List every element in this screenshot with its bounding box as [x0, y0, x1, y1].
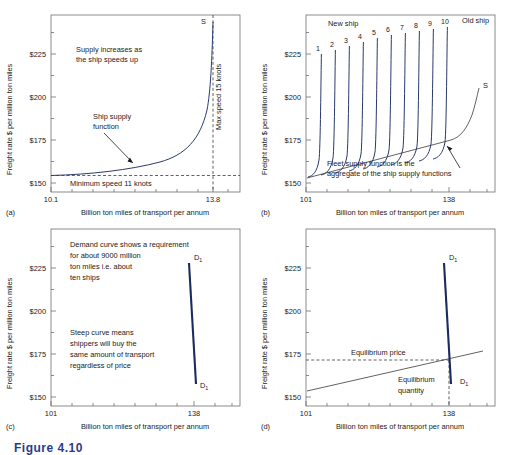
steep-curve-note-line2: shippers will buy the — [70, 339, 137, 348]
panel-c-xlabel: Billion ton miles of transport per annum — [81, 422, 209, 431]
ship-number-8: 8 — [414, 22, 418, 29]
demand-requirement-note-line2: for about 9000 million — [70, 251, 141, 260]
panel-c-y-ticks — [51, 247, 56, 398]
ship-number-5: 5 — [372, 29, 376, 36]
demand-requirement-note-line1: Demand curve shows a requirement — [70, 240, 189, 249]
panel-d-xtick-left: 101 — [300, 409, 312, 418]
ship-curve-5 — [363, 38, 377, 169]
ship-number-10: 10 — [441, 18, 449, 25]
ship-supply-function-note-line2: function — [93, 122, 119, 131]
ship-number-6: 6 — [386, 26, 390, 33]
ship-curve-4 — [349, 42, 363, 171]
ship-curve-9 — [419, 29, 433, 161]
supply-curve-label: S — [201, 17, 206, 26]
panel-b-ytick-225: $225 — [285, 50, 301, 59]
panel-a: Freight rate $ per million ton miles $15… — [0, 0, 255, 226]
new-ship-note: New ship — [328, 19, 358, 28]
ship-number-2: 2 — [330, 41, 334, 48]
equilibrium-quantity-note-line1: Equilibrium — [398, 375, 435, 384]
panel-a-xtick-left: 10.1 — [44, 195, 58, 204]
panel-a-ylabel: Freight rate $ per million ton miles — [5, 63, 14, 175]
panel-c-xtick-right: 138 — [188, 409, 200, 418]
ship-supply-function-note-line1: Ship supply — [93, 112, 132, 121]
fleet-supply-curve-label: S — [483, 81, 488, 90]
panel-a-ytick-225: $225 — [30, 50, 46, 59]
old-ship-note: Old ship — [462, 16, 489, 25]
panel-c-ytick-175: $175 — [30, 350, 46, 359]
panel-b: Freight rate $ per million ton miles $15… — [255, 0, 510, 226]
panel-d-y-ticks — [306, 247, 311, 398]
panel-d-label: (d) — [261, 422, 270, 431]
ship-number-7: 7 — [400, 24, 404, 31]
panel-b-xtick-right: 138 — [443, 195, 455, 204]
fleet-supply-arrowhead — [447, 146, 453, 151]
ship-number-1: 1 — [316, 45, 320, 52]
demand-requirement-note-line4: ten ships — [70, 273, 100, 282]
ship-supply-arrow — [104, 133, 133, 163]
panel-a-y-ticks — [51, 33, 56, 184]
panel-a-ytick-175: $175 — [30, 136, 46, 145]
panel-d-ytick-150: $150 — [285, 393, 301, 402]
panel-d-x-ticks — [306, 401, 487, 406]
panel-b-x-ticks — [306, 187, 487, 192]
ship-number-4: 4 — [358, 33, 362, 40]
demand-curve-label-top: D1 — [449, 253, 457, 263]
demand-curve-label-top: D1 — [194, 253, 202, 263]
supply-increases-note-line2: the ship speeds up — [76, 55, 138, 64]
panel-c-ytick-225: $225 — [30, 264, 46, 273]
ship-number-3: 3 — [344, 37, 348, 44]
demand-curve — [189, 263, 196, 384]
panel-b-ytick-200: $200 — [285, 93, 301, 102]
panel-b-xtick-left: 101 — [300, 195, 312, 204]
panel-c-label: (c) — [6, 422, 15, 431]
ship-curve-8 — [405, 31, 419, 163]
ship-curve-1 — [308, 54, 321, 177]
minimum-speed-note: Minimum speed 11 knots — [70, 179, 152, 188]
figure-caption: Figure 4.10 — [14, 441, 83, 455]
panel-d-ytick-225: $225 — [285, 264, 301, 273]
demand-requirement-note-line3: ton miles i.e. about — [70, 262, 132, 271]
fleet-supply-note-line1: Fleet supply function is the — [327, 159, 415, 168]
ship-curve-7 — [391, 33, 405, 165]
panel-c-ylabel: Freight rate $ per million ton miles — [5, 277, 14, 389]
equilibrium-price-note: Equilibrium price — [351, 348, 406, 357]
demand-curve — [444, 263, 451, 384]
panel-a-ytick-200: $200 — [30, 93, 46, 102]
ship-number-9: 9 — [428, 20, 432, 27]
ship-curve-10 — [433, 27, 447, 159]
demand-curve-label-bottom: D1 — [200, 381, 208, 391]
panel-d-xlabel: Billion ton miles of transport per annum — [336, 422, 464, 431]
panel-c-ytick-150: $150 — [30, 393, 46, 402]
max-speed-note: Max speed 15 knots — [214, 64, 223, 130]
panel-b-y-ticks — [306, 33, 311, 184]
steep-curve-note-line4: regardless of price — [70, 361, 131, 370]
fleet-supply-note-line2: aggregate of the ship supply functions — [327, 169, 452, 178]
ship-curve-6 — [377, 35, 391, 167]
panel-a-ytick-150: $150 — [30, 179, 46, 188]
panel-c: Freight rate $ per million ton miles $15… — [0, 214, 255, 440]
panel-d-ytick-175: $175 — [285, 350, 301, 359]
panel-d-ylabel: Freight rate $ per million ton miles — [260, 277, 269, 389]
ship-curve-3 — [335, 46, 349, 173]
ship-supply-curves — [308, 27, 447, 177]
panel-b-ytick-150: $150 — [285, 179, 301, 188]
panel-d: Freight rate $ per million ton miles $15… — [255, 214, 510, 440]
ship-curve-2 — [321, 50, 335, 175]
steep-curve-note-line1: Steep curve means — [70, 328, 134, 337]
panel-b-ylabel: Freight rate $ per million ton miles — [260, 63, 269, 175]
demand-curve-label-bottom: D1 — [460, 377, 468, 387]
panel-b-ytick-175: $175 — [285, 136, 301, 145]
panel-c-x-ticks — [51, 401, 232, 406]
supply-curve — [307, 351, 483, 391]
supply-increases-note-line1: Supply increases as — [76, 45, 142, 54]
steep-curve-note-line3: same amount of transport — [70, 350, 154, 359]
equilibrium-quantity-note-line2: quantity — [398, 386, 424, 395]
panel-c-ytick-200: $200 — [30, 307, 46, 316]
panel-d-xtick-right: 138 — [443, 409, 455, 418]
panel-a-xtick-right: 13.8 — [206, 195, 220, 204]
panel-d-ytick-200: $200 — [285, 307, 301, 316]
panel-c-xtick-left: 101 — [45, 409, 57, 418]
